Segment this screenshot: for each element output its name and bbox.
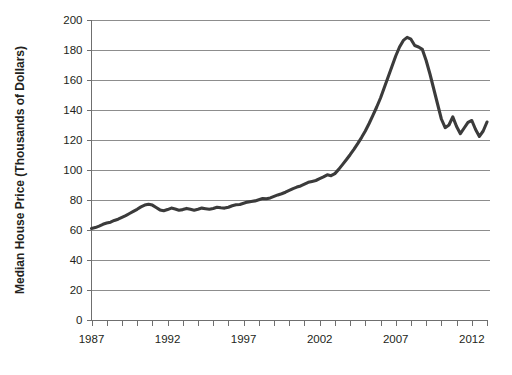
y-tick-label: 120 xyxy=(63,134,82,146)
y-tick-label: 180 xyxy=(63,44,82,56)
y-axis-tick-labels: 020406080100120140160180200 xyxy=(63,14,82,326)
x-tick-label: 1992 xyxy=(155,333,181,345)
x-tick-label: 2002 xyxy=(307,333,333,345)
x-tick-label: 1987 xyxy=(79,333,105,345)
x-tick-label: 2007 xyxy=(383,333,409,345)
gridlines xyxy=(92,21,491,291)
y-tick-label: 140 xyxy=(63,104,82,116)
y-tick-label: 40 xyxy=(70,254,83,266)
x-tick-label: 1997 xyxy=(231,333,257,345)
y-axis-title: Median House Price (Thousands of Dollars… xyxy=(13,46,27,294)
chart-canvas: 020406080100120140160180200 198719921997… xyxy=(0,0,512,375)
y-tick-label: 200 xyxy=(63,14,82,26)
y-tick-label: 0 xyxy=(76,314,82,326)
y-tick-label: 60 xyxy=(70,224,83,236)
y-tick-label: 100 xyxy=(63,164,82,176)
x-axis-tick-labels: 198719921997200220072012 xyxy=(79,333,485,345)
chart-figure: 020406080100120140160180200 198719921997… xyxy=(0,0,512,375)
data-series-median-house-price xyxy=(92,37,488,228)
y-tick-label: 80 xyxy=(70,194,83,206)
x-tick-label: 2012 xyxy=(459,333,485,345)
y-tick-label: 160 xyxy=(63,74,82,86)
y-tick-label: 20 xyxy=(70,284,83,296)
